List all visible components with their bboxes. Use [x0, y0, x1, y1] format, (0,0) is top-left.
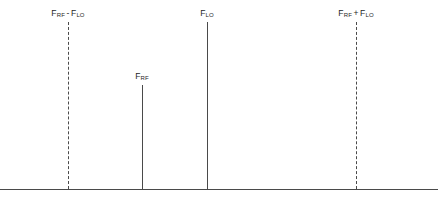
- label-subscript-lo: LO: [206, 12, 214, 18]
- label-sum-product: FRF+FLO: [338, 8, 373, 18]
- label-subscript-rf: RF: [344, 12, 352, 18]
- label-operator-minus: -: [66, 8, 69, 18]
- spectral-line-difference-product: [68, 22, 69, 189]
- label-lo-feedthrough: FLO: [200, 8, 214, 18]
- spectrum-figure: FRF-FLO FRF FLO FRF+FLO: [0, 0, 438, 213]
- spectral-line-sum-product: [356, 22, 357, 189]
- frequency-axis-baseline: [0, 189, 438, 190]
- label-operator-plus: +: [353, 8, 358, 18]
- label-subscript-rf: RF: [141, 75, 149, 81]
- spectral-line-lo-feedthrough: [207, 22, 208, 189]
- spectral-line-rf-feedthrough: [142, 85, 143, 189]
- label-subscript-rf: RF: [57, 12, 65, 18]
- label-subscript-lo: LO: [76, 12, 84, 18]
- label-rf-feedthrough: FRF: [135, 71, 149, 81]
- label-difference-product: FRF-FLO: [51, 8, 84, 18]
- label-subscript-lo: LO: [365, 12, 373, 18]
